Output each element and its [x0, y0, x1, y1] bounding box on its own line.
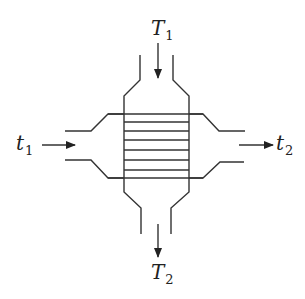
bottom-nozzle: [124, 178, 189, 234]
right-channel: [189, 114, 245, 178]
cold-inlet-label: t1: [16, 131, 33, 158]
hot-inlet-label: T1: [151, 16, 174, 43]
cold-outlet-label: t2: [276, 131, 293, 158]
exchanger-core: [108, 114, 203, 178]
top-nozzle: [124, 55, 189, 114]
hot-outlet-label: T2: [151, 260, 174, 287]
left-channel: [65, 114, 124, 178]
heat-exchanger-diagram: T1 T2 t1 t2: [0, 0, 305, 299]
